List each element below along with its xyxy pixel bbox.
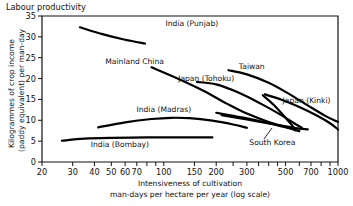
x-axis: 2030405060701001502003005007001000 Inten… (37, 162, 349, 199)
y-tick-label: 5 (31, 136, 36, 146)
series-label-mainland-china: Mainland China (105, 57, 164, 66)
series-label-taiwan: Taiwan (238, 62, 265, 71)
series-curve-india-punjab (80, 27, 145, 43)
chart-top-title: Labour productivity (6, 2, 86, 12)
y-tick-label: 10 (26, 115, 36, 125)
chart-figure: Labour productivity 05101520253035 Kilog… (0, 0, 353, 206)
y-tick-label: 35 (26, 11, 36, 21)
x-tick-label: 700 (303, 167, 319, 177)
y-axis-title-line2: (paddy equivalent) per man-day (17, 28, 26, 152)
x-tick-label: 150 (187, 167, 203, 177)
x-axis-title-line1: Intensiveness of cultivation (138, 179, 242, 188)
series-label-japan-kinki: Japan (Kinki) (282, 96, 331, 105)
x-tick-label: 30 (67, 167, 77, 177)
y-tick-label: 25 (26, 53, 36, 63)
series-label-india-punjab: India (Punjab) (166, 19, 219, 28)
x-tick-label: 200 (208, 167, 224, 177)
series-curve-india-madras (98, 118, 247, 128)
y-axis: 05101520253035 Kilogrammes of crop incom… (7, 11, 42, 167)
x-axis-title-line2: man-days per hectare per year (log scale… (110, 190, 270, 199)
x-tick-label: 300 (239, 167, 255, 177)
series-label-india-bombay: India (Bombay) (91, 140, 149, 149)
x-tick-label: 40 (89, 167, 99, 177)
y-tick-label: 15 (26, 94, 36, 104)
y-tick-label: 0 (31, 157, 36, 167)
y-axis-title-line1: Kilogrammes of crop income (7, 39, 16, 148)
data-series-group (62, 27, 338, 140)
x-tick-label: 1000 (328, 167, 349, 177)
x-tick-label: 70 (132, 167, 142, 177)
x-tick-label: 20 (37, 167, 47, 177)
x-tick-label: 50 (106, 167, 116, 177)
series-label-india-madras: India (Madras) (136, 105, 191, 114)
series-label-south-korea: South Korea (249, 138, 295, 147)
x-tick-label: 100 (156, 167, 172, 177)
x-tick-label: 500 (278, 167, 294, 177)
chart-svg: Labour productivity 05101520253035 Kilog… (0, 0, 353, 206)
series-label-japan-tohoku: Japan (Tohoku) (177, 74, 234, 83)
y-tick-label: 30 (26, 32, 36, 42)
x-tick-label: 60 (120, 167, 130, 177)
y-tick-label: 20 (26, 74, 36, 84)
